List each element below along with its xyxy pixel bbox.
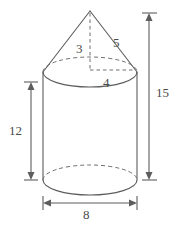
geometry-figure: 5 3 4 12 15 8 bbox=[0, 0, 177, 230]
dimension-total-height bbox=[142, 13, 157, 180]
bottom-ellipse-front-arc bbox=[43, 180, 137, 195]
dimension-cylinder-height bbox=[24, 82, 38, 180]
label-base-diameter: 8 bbox=[83, 208, 90, 221]
diameter-arrow-left bbox=[43, 200, 51, 207]
cone-left-slant-edge bbox=[43, 11, 90, 72]
figure-canvas bbox=[0, 0, 177, 230]
dimension-base-diameter bbox=[43, 196, 137, 210]
total-height-arrow-up bbox=[146, 13, 153, 21]
top-ellipse-front-arc bbox=[43, 72, 137, 87]
bottom-ellipse-back-arc-dashed bbox=[43, 165, 137, 180]
cyl-height-arrow-up bbox=[28, 82, 35, 90]
label-cone-radius: 4 bbox=[103, 76, 110, 89]
label-total-height: 15 bbox=[156, 86, 169, 99]
total-height-arrow-down bbox=[146, 172, 153, 180]
label-cylinder-height: 12 bbox=[9, 124, 22, 137]
diameter-arrow-right bbox=[129, 200, 137, 207]
label-cone-height: 3 bbox=[76, 42, 83, 55]
cyl-height-arrow-down bbox=[28, 172, 35, 180]
label-cone-slant-height: 5 bbox=[113, 36, 120, 49]
